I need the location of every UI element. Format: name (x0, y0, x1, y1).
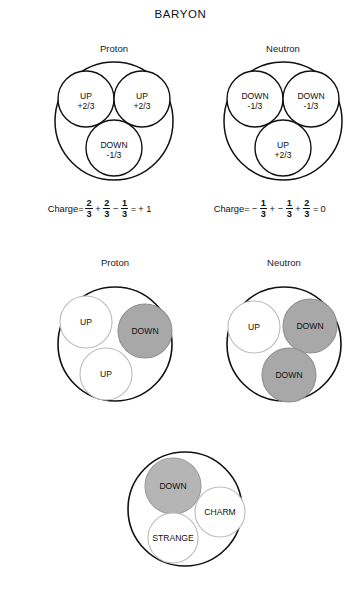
middle-neutron-group (227, 287, 341, 402)
neutron-term-3-numerator: 2 (303, 199, 310, 209)
proton-term-3-numerator: 1 (121, 199, 128, 209)
top-proton-quark-up-2-label: UP +2/3 (112, 92, 172, 111)
neutron-charge-equation-label: Charge= (214, 204, 250, 214)
neutron-term-2-numerator: 1 (286, 199, 293, 209)
middle-proton-quark-up-1-label: UP (61, 318, 111, 328)
middle-neutron-quark-down-2-label: DOWN (259, 371, 319, 381)
proton-operator-1: + (95, 204, 100, 214)
proton-term-2-fraction: 2 3 (103, 199, 110, 219)
top-proton-quark-up-1-charge: +2/3 (56, 102, 116, 112)
top-neutron-quark-down-1-flavor: DOWN (241, 91, 268, 101)
top-proton-quark-up-1-label: UP +2/3 (56, 92, 116, 111)
proton-term-3-denominator: 3 (121, 209, 128, 219)
top-neutron-quark-down-2-charge: -1/3 (281, 102, 341, 112)
top-proton-quark-up-2-charge: +2/3 (112, 102, 172, 112)
middle-proton-group (58, 287, 172, 401)
neutron-term-2-denominator: 3 (286, 209, 293, 219)
baryon-diagram-page: BARYON (0, 0, 361, 592)
neutron-term-1: − 1 3 (250, 199, 268, 219)
neutron-charge-equation: Charge= − 1 3 + − 1 3 + 2 3 = 0 (213, 199, 326, 219)
middle-neutron-title: Neutron (244, 257, 324, 268)
proton-term-2-denominator: 3 (103, 209, 110, 219)
neutron-equals-sign: = (313, 204, 318, 214)
proton-equals-sign: = (131, 204, 136, 214)
bottom-quark-down-label: DOWN (143, 482, 203, 492)
proton-term-2-numerator: 2 (103, 199, 110, 209)
top-neutron-quark-up-flavor: UP (277, 140, 289, 150)
neutron-charge-result: 0 (321, 204, 326, 214)
proton-charge-equation-label: Charge= (48, 204, 84, 214)
neutron-term-1-numerator: 1 (260, 199, 267, 209)
neutron-term-1-sign: − (252, 204, 257, 214)
top-proton-title: Proton (74, 43, 154, 54)
top-neutron-quark-down-2-label: DOWN -1/3 (281, 92, 341, 111)
top-neutron-title: Neutron (243, 43, 323, 54)
neutron-operator-1: + (269, 204, 274, 214)
top-neutron-quark-up-charge: +2/3 (253, 151, 313, 161)
middle-proton-title: Proton (75, 257, 155, 268)
proton-term-1-denominator: 3 (85, 209, 92, 219)
proton-operator-2: − (113, 204, 118, 214)
top-proton-quark-down-label: DOWN -1/3 (84, 141, 144, 160)
top-neutron-quark-up-label: UP +2/3 (253, 141, 313, 160)
proton-charge-equation: Charge= 2 3 + 2 3 − 1 3 = + 1 (47, 199, 152, 219)
top-proton-quark-down-flavor: DOWN (100, 140, 127, 150)
neutron-term-3-denominator: 3 (303, 209, 310, 219)
top-neutron-quark-down-1-charge: -1/3 (225, 102, 285, 112)
top-proton-quark-up-1-flavor: UP (80, 91, 92, 101)
top-neutron-quark-down-2-flavor: DOWN (297, 91, 324, 101)
neutron-term-1-fraction: 1 3 (260, 199, 267, 219)
neutron-term-2-fraction: 1 3 (286, 199, 293, 219)
top-neutron-group (224, 62, 342, 180)
bottom-quark-strange-label: STRANGE (137, 534, 209, 544)
proton-term-1-fraction: 2 3 (85, 199, 92, 219)
diagram-canvas (0, 0, 361, 592)
proton-term-1-numerator: 2 (85, 199, 92, 209)
neutron-term-1-denominator: 3 (260, 209, 267, 219)
proton-charge-result: + 1 (138, 204, 151, 214)
top-proton-group (55, 62, 173, 180)
middle-neutron-quark-up-label: UP (229, 323, 279, 333)
middle-proton-quark-up-2-label: UP (81, 370, 131, 380)
top-proton-quark-down-charge: -1/3 (84, 151, 144, 161)
bottom-quark-charm-label: CHARM (187, 508, 253, 518)
neutron-term-2-sign: − (278, 204, 283, 214)
neutron-term-2: − 1 3 (276, 199, 294, 219)
neutron-operator-2: + (295, 204, 300, 214)
proton-term-3-fraction: 1 3 (121, 199, 128, 219)
top-neutron-quark-down-1-label: DOWN -1/3 (225, 92, 285, 111)
middle-proton-quark-down-label: DOWN (115, 327, 175, 337)
middle-neutron-quark-down-1-label: DOWN (280, 322, 340, 332)
neutron-term-3-fraction: 2 3 (303, 199, 310, 219)
top-proton-quark-up-2-flavor: UP (136, 91, 148, 101)
